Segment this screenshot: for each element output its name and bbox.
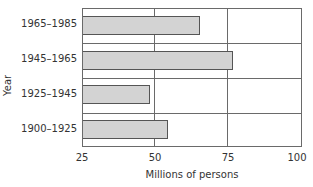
plot-area <box>82 8 302 147</box>
bar-1900-1925 <box>83 120 168 139</box>
y-tick-label: 1945–1965 <box>21 53 77 64</box>
y-tick-label: 1925–1945 <box>21 88 77 99</box>
gridline-row-1 <box>83 43 301 44</box>
x-tick-label: 100 <box>287 152 306 163</box>
y-tick-label: 1965–1985 <box>21 18 77 29</box>
bar-1945-1965 <box>83 51 233 70</box>
y-axis-label: Year <box>2 75 13 96</box>
gridline-row-3 <box>83 113 301 114</box>
bar-1965-1985 <box>83 16 200 35</box>
y-tick-label: 1900–1925 <box>21 123 77 134</box>
x-axis-label: Millions of persons <box>146 169 239 180</box>
x-tick-label: 25 <box>76 152 89 163</box>
bar-1925-1945 <box>83 85 150 104</box>
x-tick-label: 50 <box>149 152 162 163</box>
gridline-row-2 <box>83 78 301 79</box>
x-tick-label: 75 <box>222 152 235 163</box>
